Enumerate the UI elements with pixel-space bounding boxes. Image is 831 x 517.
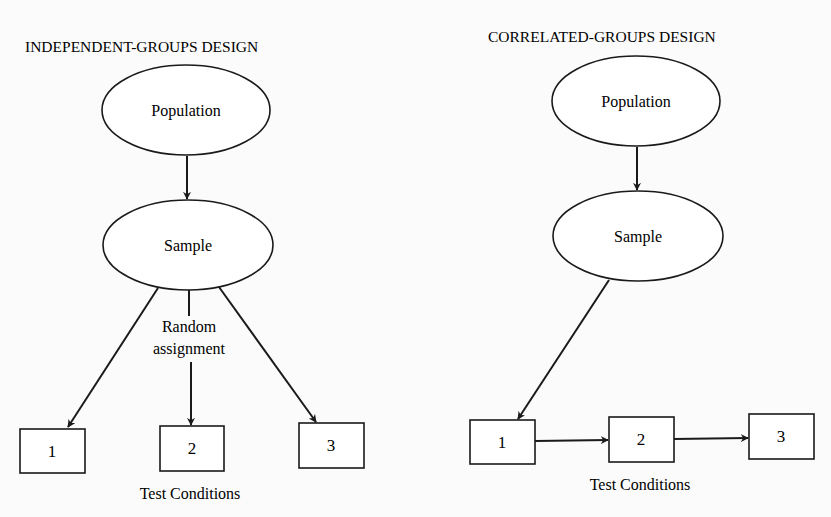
left-sample-label: Sample (164, 237, 212, 255)
left-condition-2-label: 2 (188, 439, 197, 458)
right-condition-1-to-2-arrow (535, 440, 608, 441)
right-condition-1-label: 1 (498, 433, 507, 452)
left-population-label: Population (151, 102, 220, 120)
random-assignment-label-line1: Random (162, 318, 217, 335)
independent-groups-panel: INDEPENDENT-GROUPS DESIGN Population Sam… (20, 38, 364, 502)
right-condition-2-to-3-arrow (674, 438, 748, 439)
right-sample-node: Sample (553, 191, 723, 281)
independent-groups-title: INDEPENDENT-GROUPS DESIGN (25, 38, 258, 55)
right-condition-box-2: 2 (609, 417, 674, 462)
right-population-label: Population (601, 93, 670, 111)
left-sample-to-condition-3-arrow (219, 287, 316, 422)
correlated-groups-title: CORRELATED-GROUPS DESIGN (488, 28, 716, 45)
left-population-node: Population (102, 65, 270, 155)
right-condition-3-label: 3 (777, 427, 786, 446)
random-assignment-label-line2: assignment (153, 340, 226, 358)
right-test-conditions-caption: Test Conditions (590, 476, 691, 493)
right-sample-label: Sample (614, 228, 662, 246)
right-sample-to-condition-1-arrow (518, 280, 609, 419)
right-condition-box-3: 3 (749, 414, 814, 459)
left-condition-3-label: 3 (327, 436, 336, 455)
left-condition-1-label: 1 (48, 442, 57, 461)
right-condition-box-1: 1 (470, 420, 535, 464)
left-sample-to-condition-1-arrow (68, 288, 158, 427)
left-condition-box-2: 2 (160, 426, 224, 471)
left-condition-box-1: 1 (20, 429, 85, 473)
right-condition-2-label: 2 (637, 430, 646, 449)
left-condition-box-3: 3 (299, 423, 364, 468)
research-design-diagram: INDEPENDENT-GROUPS DESIGN Population Sam… (0, 0, 831, 517)
correlated-groups-panel: CORRELATED-GROUPS DESIGN Population Samp… (470, 28, 814, 493)
left-test-conditions-caption: Test Conditions (140, 485, 241, 502)
left-sample-node: Sample (103, 200, 273, 290)
right-population-node: Population (552, 56, 720, 146)
